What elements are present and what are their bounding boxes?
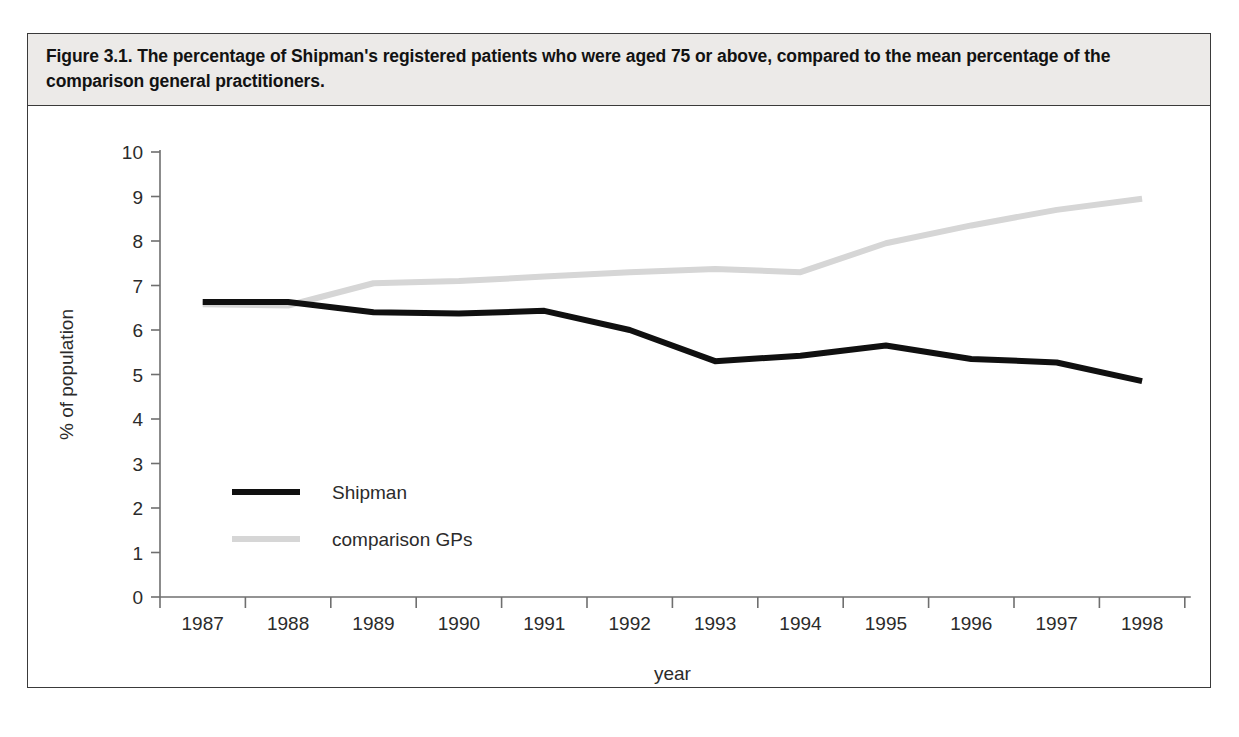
x-axis-tick-label: 1988 [267, 613, 309, 634]
legend-label-shipman: Shipman [332, 482, 407, 503]
chart-series [203, 199, 1142, 381]
y-axis-tick-label: 5 [132, 365, 143, 386]
figure-caption-text: Figure 3.1. The percentage of Shipman's … [46, 44, 1192, 94]
legend-label-comparison-gps: comparison GPs [332, 529, 472, 550]
x-axis-tick-label: 1989 [352, 613, 394, 634]
x-axis-tick-label: 1987 [182, 613, 224, 634]
x-axis-tick-label: 1996 [950, 613, 992, 634]
chart-axes: 0123456789101987198819891990199119921993… [56, 142, 1191, 684]
y-axis-tick-label: 6 [132, 320, 143, 341]
y-axis-tick-label: 3 [132, 454, 143, 475]
x-axis-tick-label: 1991 [523, 613, 565, 634]
x-axis-tick-label: 1994 [779, 613, 822, 634]
series-line-comparison-gps [203, 199, 1142, 306]
chart-plot-area: 0123456789101987198819891990199119921993… [27, 106, 1211, 688]
line-chart-svg: 0123456789101987198819891990199119921993… [27, 106, 1211, 688]
y-axis-tick-label: 2 [132, 498, 143, 519]
y-axis-tick-label: 7 [132, 276, 143, 297]
x-axis-tick-label: 1993 [694, 613, 736, 634]
y-axis-tick-label: 4 [132, 409, 143, 430]
y-axis-title: % of population [56, 309, 77, 440]
y-axis-tick-label: 10 [122, 142, 143, 163]
y-axis-tick-label: 0 [132, 587, 143, 608]
y-axis-tick-label: 9 [132, 187, 143, 208]
x-axis-tick-label: 1990 [438, 613, 480, 634]
chart-legend: Shipmancomparison GPs [232, 482, 472, 550]
x-axis-tick-label: 1992 [609, 613, 651, 634]
x-axis-title: year [654, 663, 692, 684]
figure-root: Figure 3.1. The percentage of Shipman's … [0, 0, 1239, 737]
y-axis-tick-label: 1 [132, 543, 143, 564]
x-axis-tick-label: 1998 [1121, 613, 1163, 634]
figure-caption-banner: Figure 3.1. The percentage of Shipman's … [27, 33, 1211, 106]
series-line-shipman [203, 302, 1142, 381]
x-axis-tick-label: 1995 [865, 613, 907, 634]
x-axis-tick-label: 1997 [1036, 613, 1078, 634]
y-axis-tick-label: 8 [132, 231, 143, 252]
